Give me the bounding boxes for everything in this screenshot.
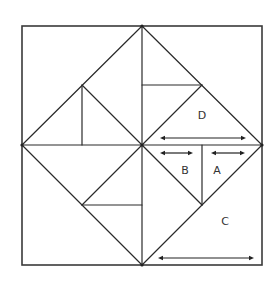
piece-label-b: B	[181, 164, 189, 177]
vertex-right	[260, 143, 263, 146]
vertex-top	[140, 24, 143, 27]
piece-label-c: C	[221, 215, 229, 228]
piece-label-a: A	[213, 164, 221, 177]
vertex-bottom	[140, 263, 143, 266]
tangram-square-diagram: DBAC	[0, 0, 279, 285]
vertex-left	[20, 143, 23, 146]
diagram-canvas: DBAC	[0, 0, 279, 285]
piece-label-d: D	[198, 109, 206, 122]
vertex-center	[140, 143, 143, 146]
